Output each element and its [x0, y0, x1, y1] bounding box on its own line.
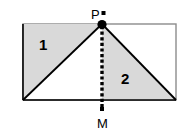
geometry-figure: 1 2 P M — [0, 0, 186, 136]
region-1-label: 1 — [39, 37, 47, 52]
region-2-label: 2 — [121, 71, 129, 86]
point-p-label: P — [91, 8, 100, 21]
point-p-square-marker — [102, 11, 106, 15]
point-m-label: M — [97, 117, 108, 130]
point-m-square-marker — [100, 107, 104, 111]
